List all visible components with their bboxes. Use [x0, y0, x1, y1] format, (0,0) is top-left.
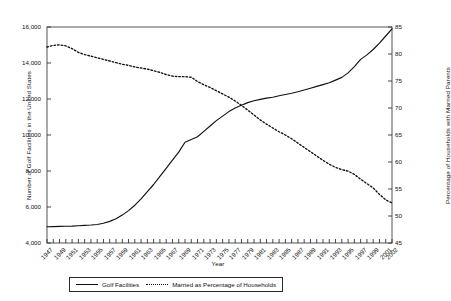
y-axis-right-title: Percentage of Households with Married Pa…	[444, 41, 451, 231]
legend-entry-golf-facilities: Golf Facilities	[76, 281, 139, 288]
legend-line-dotted-icon	[146, 282, 168, 288]
y-tick-label-right: 65	[395, 131, 429, 138]
y-tick-label-right: 60	[395, 158, 429, 165]
axes-frame	[47, 27, 392, 243]
series-line-married-as-percentage-of-households	[47, 45, 392, 203]
y-tick-label-right: 85	[395, 23, 429, 30]
y-tick-label-left: 4,000	[7, 239, 41, 246]
legend-line-solid-icon	[76, 282, 98, 288]
y-tick-label-left: 16,000	[7, 23, 41, 30]
y-tick-label-right: 75	[395, 77, 429, 84]
y-tick-label-right: 80	[395, 50, 429, 57]
y-axis-left-title: Number of Golf Facilities in the United …	[25, 56, 32, 216]
legend-label-golf-facilities: Golf Facilities	[102, 281, 139, 288]
x-axis-title: Year	[178, 260, 258, 267]
y-tick-label-right: 45	[395, 239, 429, 246]
legend-entry-married-percentage: Married as Percentage of Households	[146, 281, 276, 288]
y-tick-label-right: 50	[395, 212, 429, 219]
data-series	[47, 29, 392, 227]
tick-marks	[47, 27, 392, 243]
legend-label-married-percentage: Married as Percentage of Households	[172, 281, 276, 288]
chart-legend: Golf Facilities Married as Percentage of…	[69, 277, 283, 292]
y-tick-label-right: 55	[395, 185, 429, 192]
y-tick-label-right: 70	[395, 104, 429, 111]
